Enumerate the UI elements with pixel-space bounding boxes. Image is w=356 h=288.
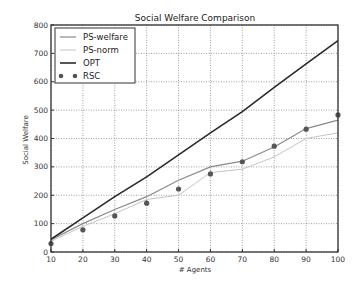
legend: PS-welfarePS-normOPTRSC xyxy=(55,28,135,83)
x-tick-label: 80 xyxy=(269,255,279,264)
y-tick-label: 400 xyxy=(34,134,49,143)
x-tick-label: 20 xyxy=(78,255,88,264)
y-tick-label: 300 xyxy=(34,162,49,171)
rsc-marker xyxy=(304,127,309,132)
legend-label: PS-welfare xyxy=(83,32,128,42)
y-tick-label: 200 xyxy=(34,191,49,200)
x-tick-label: 30 xyxy=(110,255,120,264)
x-tick-label: 100 xyxy=(331,255,346,264)
x-axis-ticks: 102030405060708090100 xyxy=(46,249,345,264)
y-tick-label: 0 xyxy=(43,248,48,257)
rsc-marker xyxy=(144,201,149,206)
y-axis-label: Social Welfare xyxy=(22,115,30,165)
rsc-marker xyxy=(176,186,181,191)
social-welfare-chart: Social Welfare Comparison 10203040506070… xyxy=(0,0,356,288)
rsc-marker xyxy=(80,227,85,232)
rsc-marker xyxy=(272,144,277,149)
y-tick-label: 100 xyxy=(34,219,49,228)
x-tick-label: 50 xyxy=(174,255,184,264)
y-tick-label: 500 xyxy=(34,106,49,115)
rsc-marker xyxy=(240,159,245,164)
y-tick-label: 800 xyxy=(34,21,49,30)
x-tick-label: 40 xyxy=(142,255,152,264)
legend-label: RSC xyxy=(83,71,100,81)
y-tick-label: 700 xyxy=(34,49,49,58)
series-ps-norm-line xyxy=(51,133,338,241)
legend-label: PS-norm xyxy=(83,45,119,55)
x-axis-label: # Agents xyxy=(179,266,212,274)
y-tick-label: 600 xyxy=(34,77,49,86)
rsc-marker xyxy=(208,171,213,176)
legend-label: OPT xyxy=(83,58,101,68)
x-tick-label: 60 xyxy=(206,255,216,264)
chart-title: Social Welfare Comparison xyxy=(135,13,255,23)
x-tick-label: 90 xyxy=(301,255,311,264)
rsc-marker xyxy=(112,213,117,218)
x-tick-label: 70 xyxy=(238,255,248,264)
